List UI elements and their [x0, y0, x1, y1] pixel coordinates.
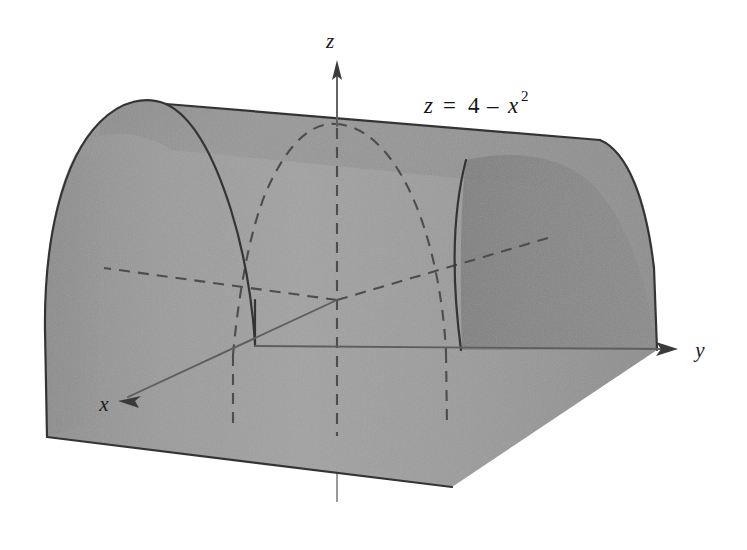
z-axis-label: z: [325, 29, 334, 53]
y-axis-label: y: [693, 338, 705, 362]
equation-constant: 4: [468, 93, 480, 118]
equation-minus: –: [486, 93, 499, 118]
x-axis-label: x: [98, 392, 109, 416]
figure-canvas: z y x z = 4 – x 2: [0, 0, 747, 550]
equation-exponent: 2: [521, 88, 529, 104]
equation-variable: x: [507, 93, 519, 118]
figure-3d-parabolic-cylinder: z y x z = 4 – x 2: [0, 0, 747, 550]
equation-equals: =: [443, 93, 456, 118]
equation-lhs: z: [423, 93, 433, 118]
